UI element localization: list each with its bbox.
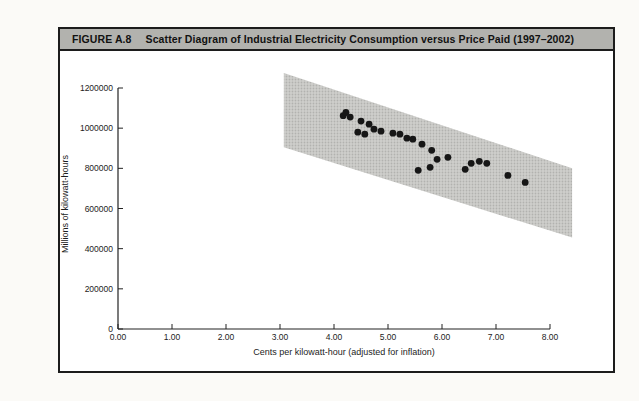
data-point [409, 136, 416, 143]
figure-label: FIGURE A.8 [72, 33, 132, 45]
y-axis-title: Millions of kilowatt-hours [60, 154, 70, 253]
data-point [428, 147, 435, 154]
data-point [347, 114, 354, 121]
x-tick-label: 6.00 [434, 332, 451, 342]
y-tick-label: 600000 [85, 204, 114, 214]
data-point [397, 131, 404, 138]
data-point [468, 160, 475, 167]
y-tick-label: 400000 [85, 244, 114, 254]
scatter-chart: 0200000400000600000800000100000012000000… [60, 51, 613, 371]
data-point [415, 167, 422, 174]
data-point [419, 141, 426, 148]
data-point [434, 156, 441, 163]
x-tick-label: 4.00 [326, 332, 343, 342]
data-point [483, 160, 490, 167]
x-tick-label: 1.00 [164, 332, 181, 342]
x-axis-title: Cents per kilowatt-hour (adjusted for in… [253, 347, 435, 357]
data-point [361, 131, 368, 138]
x-tick-label: 3.00 [272, 332, 289, 342]
confidence-band [284, 73, 572, 238]
x-tick-label: 5.00 [380, 332, 397, 342]
x-tick-label: 8.00 [542, 332, 559, 342]
x-tick-label: 2.00 [218, 332, 235, 342]
data-point [462, 166, 469, 173]
y-tick-label: 200000 [85, 284, 114, 294]
figure-box: FIGURE A.8 Scatter Diagram of Industrial… [58, 27, 615, 373]
y-tick-label: 1200000 [80, 83, 113, 93]
figure-title-bar: FIGURE A.8 Scatter Diagram of Industrial… [60, 29, 613, 51]
data-point [354, 129, 361, 136]
data-point [371, 126, 378, 133]
x-tick-label: 0.00 [110, 332, 127, 342]
chart-area: 0200000400000600000800000100000012000000… [60, 51, 613, 371]
data-point [358, 118, 365, 125]
data-point [366, 121, 373, 128]
data-point [404, 135, 411, 142]
y-tick-label: 800000 [85, 163, 114, 173]
data-point [378, 128, 385, 135]
data-point [505, 172, 512, 179]
data-point [427, 164, 434, 171]
figure-title: Scatter Diagram of Industrial Electricit… [146, 33, 574, 45]
data-point [476, 158, 483, 165]
data-point [522, 179, 529, 186]
x-tick-label: 7.00 [488, 332, 505, 342]
y-tick-label: 1000000 [80, 123, 113, 133]
data-point [390, 130, 397, 137]
data-point [445, 154, 452, 161]
